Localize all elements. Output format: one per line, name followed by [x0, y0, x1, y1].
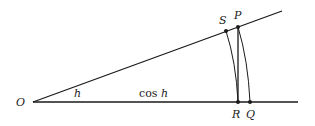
angle-label-h: h [74, 87, 81, 100]
point-P [236, 25, 240, 29]
label-S: S [219, 14, 227, 27]
label-O: O [16, 96, 25, 109]
arc-PQ [238, 27, 250, 102]
label-R: R [231, 108, 240, 121]
label-P: P [233, 9, 242, 22]
arc-SR [226, 31, 238, 102]
point-Q [248, 100, 252, 104]
diagram-canvas: O h cos h S P R Q [0, 0, 315, 126]
cos-var: h [161, 87, 168, 100]
segment-label-cos-h: cos h [139, 87, 168, 100]
point-R [236, 100, 240, 104]
label-Q: Q [246, 108, 255, 121]
cos-text: cos [139, 87, 161, 100]
point-S [224, 29, 228, 33]
